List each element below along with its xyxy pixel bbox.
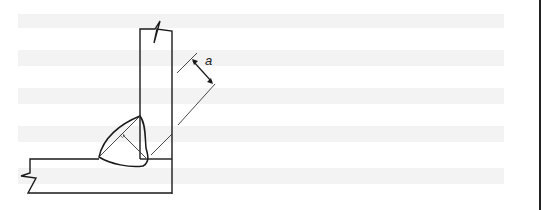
extension-line-lower-inside [151,134,172,155]
weld-diagram: a [0,0,547,210]
extension-line-lower [178,84,215,125]
dimension-label-a: a [205,53,212,68]
horizontal-plate [21,159,172,193]
vertical-plate [140,21,172,194]
weld-hypotenuse-line [99,116,140,157]
throat-line [123,135,146,158]
